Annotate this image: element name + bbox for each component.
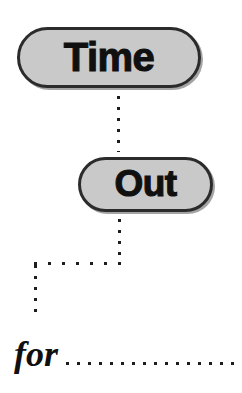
dotted-connector-down-to-caption [34,265,37,313]
poster-canvas: Time Out for [0,0,242,393]
caption-dotted-blank-line [66,362,242,365]
dotted-connector-out-downward [118,219,121,265]
dotted-connector-time-to-out [117,96,120,152]
title-pill-out-label: Out [114,165,176,202]
caption-prefix-for: for [14,336,58,372]
title-pill-time-label: Time [64,37,155,77]
dotted-connector-horizontal-left [34,262,121,265]
title-pill-out: Out [78,157,213,212]
title-pill-time: Time [17,27,201,88]
